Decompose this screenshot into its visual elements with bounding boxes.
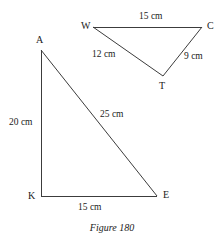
geometry-diagram [0, 0, 224, 240]
side-length-wc: 15 cm [139, 11, 162, 22]
vertex-label-a: A [36, 34, 43, 45]
vertex-label-w: W [81, 20, 90, 31]
figure-180-container: W C T 15 cm 12 cm 9 cm A K E 20 cm 25 cm… [0, 0, 224, 240]
vertex-label-e: E [163, 189, 169, 200]
vertex-label-t: T [159, 80, 165, 91]
vertex-label-k: K [28, 190, 35, 201]
side-length-wt: 12 cm [92, 49, 115, 60]
side-length-tc: 9 cm [184, 51, 203, 62]
triangle-ake-shape [41, 50, 157, 196]
figure-caption: Figure 180 [0, 222, 224, 233]
side-length-ke: 15 cm [78, 202, 101, 213]
side-length-ak: 20 cm [9, 117, 32, 128]
side-length-ae: 25 cm [100, 109, 123, 120]
vertex-label-c: C [207, 20, 214, 31]
segment-ae [41, 50, 157, 196]
